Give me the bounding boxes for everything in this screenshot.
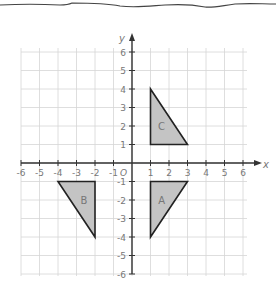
tick-labels: -6-5-4-3-2-1123456654321-1-2-3-4-5-6Oxy: [17, 33, 269, 280]
y-tick-label: 6: [120, 48, 126, 58]
triangle-label-a: A: [158, 195, 165, 206]
y-tick-label: 3: [120, 103, 126, 113]
y-tick-label: -5: [117, 251, 126, 261]
x-tick-label: 2: [166, 168, 172, 178]
y-tick-label: -4: [117, 233, 126, 243]
torn-edge-line: [0, 3, 276, 7]
grid-lines: [21, 48, 247, 276]
x-tick-label: -3: [72, 168, 81, 178]
y-tick-label: -1: [117, 177, 126, 187]
x-tick-label: 3: [185, 168, 191, 178]
y-tick-label: 1: [120, 140, 126, 150]
x-tick-label: -6: [17, 168, 26, 178]
y-axis-arrow-icon: [129, 33, 135, 41]
x-tick-label: 5: [222, 168, 228, 178]
y-tick-label: -3: [117, 214, 126, 224]
coordinate-grid-diagram: CAB -6-5-4-3-2-1123456654321-1-2-3-4-5-6…: [0, 0, 276, 298]
x-axis-arrow-icon: [254, 160, 262, 166]
x-tick-label: -5: [35, 168, 44, 178]
x-axis-label: x: [262, 159, 269, 170]
x-tick-label: 6: [240, 168, 246, 178]
y-tick-label: 5: [120, 66, 126, 76]
y-tick-label: -6: [117, 270, 126, 280]
x-tick-label: 1: [148, 168, 154, 178]
y-tick-label: 4: [120, 85, 126, 95]
axes: [21, 33, 262, 274]
x-tick-label: -2: [91, 168, 100, 178]
triangle-label-c: C: [158, 121, 165, 132]
y-tick-label: 2: [120, 122, 126, 132]
x-tick-label: -4: [54, 168, 63, 178]
origin-label: O: [120, 168, 127, 178]
y-tick-label: -2: [117, 196, 126, 206]
triangle-label-b: B: [80, 195, 87, 206]
y-axis-label: y: [118, 33, 126, 44]
x-tick-label: 4: [203, 168, 209, 178]
